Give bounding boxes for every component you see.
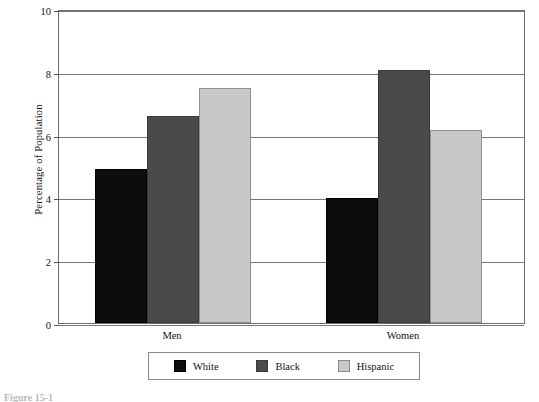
y-tick-mark-8 [54,74,59,75]
y-axis-title: Percentage of Population [33,60,44,260]
y-tick-mark-6 [54,137,59,138]
legend-swatch-hispanic [338,360,350,372]
y-tick-label: 2 [46,257,51,268]
gridline-y-10 [59,11,524,12]
x-axis-label-women: Women [387,330,419,341]
bar-women-black [378,70,430,323]
bar-women-white [326,198,378,323]
y-tick-mark-4 [54,199,59,200]
plot-area: 0246810 [58,10,525,324]
bar-men-hispanic [199,88,251,324]
y-tick-label: 4 [46,194,51,205]
figure-caption: Figure 15-1 [4,392,53,402]
legend-swatch-black [256,360,268,372]
legend-entry-black: Black [256,360,300,372]
bar-men-black [147,116,199,323]
gridline-y-8 [59,74,524,75]
y-tick-mark-0 [54,325,59,326]
chart-legend: WhiteBlackHispanic [148,352,420,380]
y-tick-label: 0 [46,320,51,331]
y-tick-label: 10 [41,6,52,17]
bar-men-white [95,169,147,323]
legend-entry-white: White [174,360,219,372]
y-tick-label: 8 [46,68,51,79]
legend-label: Hispanic [357,361,394,372]
gridline-y-0 [59,325,524,326]
y-tick-label: 6 [46,131,51,142]
bar-women-hispanic [430,130,482,323]
y-tick-mark-2 [54,262,59,263]
legend-swatch-white [174,360,186,372]
legend-label: Black [275,361,300,372]
y-tick-mark-10 [54,11,59,12]
legend-entry-hispanic: Hispanic [338,360,394,372]
figure-bar-chart: Percentage of Population 0246810 MenWome… [0,0,539,402]
x-axis-label-men: Men [162,330,181,341]
legend-label: White [193,361,219,372]
